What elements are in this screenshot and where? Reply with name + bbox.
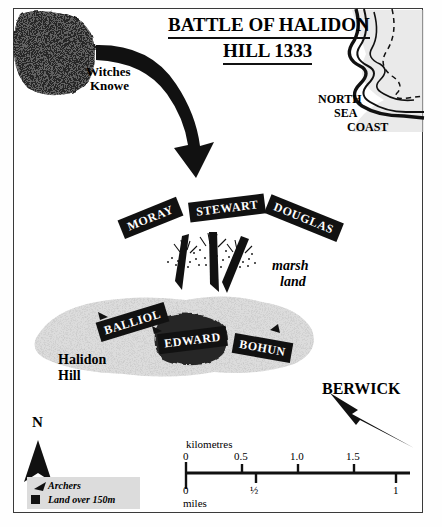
scale-tick-km-1-5: 1.5 [346,450,360,462]
label-north-sea-line3: COAST [347,120,388,135]
legend-label-land-over-150m: Land over 150m [48,494,115,505]
scale-unit-kilometres: kilometres [186,438,232,450]
scale-tick-km-1-0: 1.0 [290,450,304,462]
legend-label-archers: Archers [48,480,81,491]
label-berwick: BERWICK [322,380,401,398]
scale-tick-km-0-5: 0.5 [234,450,248,462]
label-marsh-line2: land [280,274,306,290]
label-marsh-line1: marsh [272,258,309,274]
land-over-150m-swatch [31,495,40,504]
label-north-sea-line1: NORTH [318,92,362,107]
scale-tick-mi-half: ½ [250,484,258,496]
page-title-line2: HILL 1333 [223,40,312,65]
scale-unit-miles: miles [183,497,207,509]
scale-tick-mi-1: 1 [393,484,399,496]
label-halidon-hill-line2: Hill [58,368,81,384]
page-title-line1: BATTLE OF HALIDON [168,14,370,39]
scottish-attack-arrows [175,232,249,293]
label-north-sea-line2: SEA [334,106,357,121]
scale-tick-mi-0: 0 [183,484,189,496]
compass-north-label: N [32,414,43,431]
label-witches-knowe-line2: Knowe [90,78,129,94]
witches-knowe-highground [14,11,95,95]
scale-tick-km-0: 0 [183,450,189,462]
scale-bar [186,462,410,489]
battle-map: BATTLE OF HALIDON HILL 1333 Witches Know… [0,0,442,527]
label-halidon-hill-line1: Halidon [58,352,106,368]
north-arrow [24,440,52,482]
berwick-arrow [330,393,414,448]
